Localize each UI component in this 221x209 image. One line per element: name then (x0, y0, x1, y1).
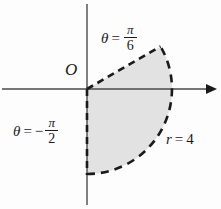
theta-symbol-lower: θ (13, 124, 20, 139)
equals-sign-lower: = (23, 124, 31, 139)
r-symbol: r (166, 132, 172, 147)
minus-sign-lower: − (35, 124, 43, 139)
upper-ray-angle-label: θ = π 6 (101, 23, 138, 53)
fraction-pi-over-2: π 2 (45, 116, 58, 146)
equals-sign-arc: = (175, 132, 183, 147)
arc-radius-label: r = 4 (166, 132, 194, 147)
equals-sign-upper: = (111, 31, 119, 46)
fraction-numerator-upper: π (125, 23, 136, 37)
origin-label: O (65, 61, 77, 78)
fraction-denominator-upper: 6 (125, 38, 136, 53)
fraction-pi-over-6: π 6 (124, 23, 137, 53)
fraction-denominator-lower: 2 (46, 131, 57, 146)
radius-value: 4 (186, 132, 194, 147)
theta-symbol-upper: θ (101, 31, 108, 46)
fraction-numerator-lower: π (47, 116, 58, 130)
x-axis-arrowhead-icon (206, 84, 217, 94)
lower-ray-angle-label: θ = − π 2 (13, 116, 59, 146)
